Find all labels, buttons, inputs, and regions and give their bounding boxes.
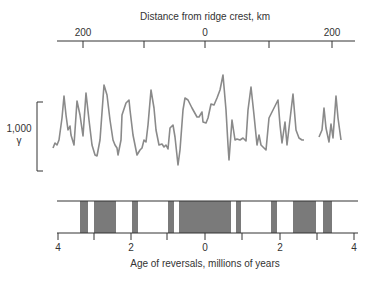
bottom-tick-label: 2	[277, 242, 283, 253]
bottom-tick-label: 2	[128, 242, 134, 253]
top-tick-label: 200	[75, 27, 92, 38]
bottom-tick-label: 4	[55, 242, 61, 253]
top-tick-label: 0	[202, 27, 208, 38]
scale-bar: 1,000 γ	[6, 102, 43, 171]
normal-polarity-band	[80, 201, 88, 233]
normal-polarity-band	[293, 201, 316, 233]
anomaly-profile	[53, 75, 341, 165]
bottom-tick-label: 0	[202, 242, 208, 253]
magnetic-anomaly-diagram: Distance from ridge crest, km 2000200 1,…	[0, 0, 372, 283]
bottom-tick-label: 4	[351, 242, 357, 253]
top-axis-title: Distance from ridge crest, km	[140, 11, 270, 22]
normal-polarity-band	[323, 201, 332, 233]
normal-polarity-band	[236, 201, 241, 233]
profile-line	[53, 75, 304, 165]
normal-polarity-band	[94, 201, 116, 233]
top-axis: Distance from ridge crest, km 2000200	[57, 11, 355, 48]
normal-polarity-band	[132, 201, 138, 233]
scale-bracket	[37, 102, 43, 171]
normal-polarity-band	[271, 201, 277, 233]
reversal-timescale: 42024 Age of reversals, millions of year…	[55, 201, 358, 269]
bottom-axis-title: Age of reversals, millions of years	[130, 258, 280, 269]
profile-line	[319, 96, 341, 142]
top-tick-label: 200	[324, 27, 341, 38]
normal-polarity-band	[168, 201, 174, 233]
normal-polarity-band	[179, 201, 231, 233]
scale-unit: γ	[17, 135, 22, 146]
scale-value: 1,000	[6, 123, 31, 134]
